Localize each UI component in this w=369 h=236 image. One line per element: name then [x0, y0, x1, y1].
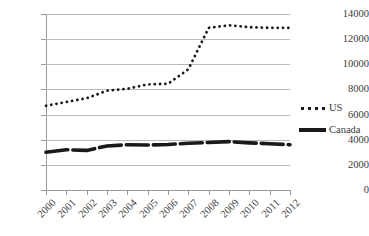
x-axis-tick: [66, 190, 67, 195]
y-axis-label: 12000: [327, 34, 369, 44]
chart-legend: US Canada: [299, 100, 369, 144]
legend-item-canada[interactable]: Canada: [299, 122, 369, 137]
x-axis-tick: [229, 190, 230, 195]
legend-item-us[interactable]: US: [299, 100, 369, 115]
legend-label-canada: Canada: [329, 124, 361, 135]
y-axis-label: 8000: [327, 84, 369, 94]
x-axis-tick: [290, 190, 291, 195]
series-layer: [46, 14, 290, 190]
chart-container: 02000400060008000100001200014000 2000200…: [0, 0, 369, 236]
x-axis-tick: [46, 190, 47, 195]
y-axis-label: 0: [327, 185, 369, 195]
series-line-canada: [46, 142, 290, 153]
solid-line-marker-icon: [299, 125, 326, 135]
x-axis-tick: [270, 190, 271, 195]
x-axis-tick: [107, 190, 108, 195]
y-axis-label: 10000: [327, 59, 369, 69]
x-axis-tick: [209, 190, 210, 195]
plot-area: [46, 14, 290, 190]
x-axis-tick: [188, 190, 189, 195]
y-axis-label: 2000: [327, 160, 369, 170]
dotted-line-marker-icon: [299, 103, 326, 113]
x-axis-tick: [148, 190, 149, 195]
series-line-us: [46, 25, 290, 105]
x-axis-tick: [127, 190, 128, 195]
x-axis-tick: [168, 190, 169, 195]
x-axis-tick: [249, 190, 250, 195]
legend-label-us: US: [329, 102, 342, 113]
y-axis-label: 14000: [327, 9, 369, 19]
x-axis-tick: [87, 190, 88, 195]
